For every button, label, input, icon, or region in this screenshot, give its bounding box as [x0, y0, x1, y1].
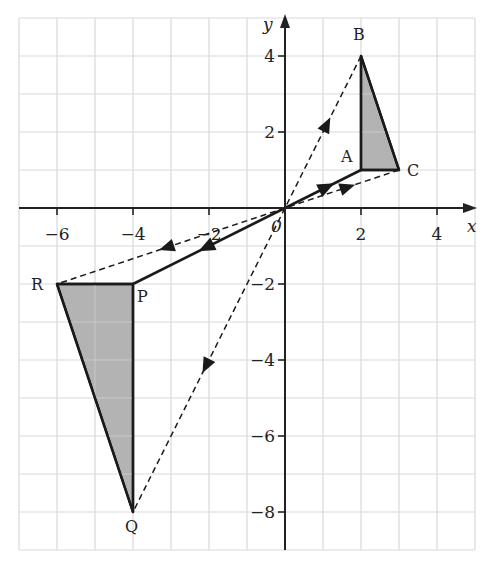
enlargement-diagram: −6−4−22442−2−4−6−8xy0ABCPQR	[0, 0, 484, 565]
vertex-label-p: P	[137, 287, 148, 306]
vertex-label-b: B	[353, 25, 365, 44]
x-axis-label: x	[467, 216, 477, 236]
y-tick-label: 2	[264, 122, 275, 142]
x-tick-label: 2	[356, 224, 367, 244]
y-tick-label: −8	[250, 502, 275, 522]
y-tick-label: 4	[264, 46, 275, 66]
y-axis-label: y	[262, 14, 273, 34]
arrowhead-icon	[159, 239, 176, 251]
arrowhead-icon	[338, 183, 355, 195]
y-axis-arrow-icon	[280, 14, 290, 28]
x-tick-label: −2	[196, 224, 221, 244]
coordinate-plane: −6−4−22442−2−4−6−8xy0ABCPQR	[0, 0, 484, 565]
y-tick-label: −4	[250, 350, 275, 370]
y-tick-label: −6	[250, 426, 275, 446]
vertex-label-r: R	[31, 275, 44, 294]
x-tick-label: −6	[44, 224, 69, 244]
vertex-label-c: C	[407, 161, 419, 180]
origin-label: 0	[271, 216, 282, 236]
x-tick-label: −4	[120, 224, 145, 244]
vertex-label-a: A	[340, 147, 353, 166]
vertex-label-q: Q	[125, 517, 138, 536]
y-tick-label: −2	[250, 274, 275, 294]
labels: −6−4−22442−2−4−6−8xy0ABCPQR	[31, 14, 477, 536]
x-tick-label: 4	[432, 224, 443, 244]
